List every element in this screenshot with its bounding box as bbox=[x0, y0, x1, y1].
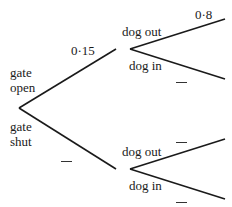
branch-gate-shut bbox=[19, 108, 116, 169]
prob-open-dog-out: 0·8 bbox=[195, 8, 212, 22]
label-gate-open-line1: gate bbox=[10, 66, 32, 80]
blank-prob-shut-dog-out bbox=[176, 142, 187, 143]
blank-prob-open-dog-in bbox=[176, 82, 187, 83]
tree-diagram bbox=[0, 0, 232, 207]
label-open-dog-out: dog out bbox=[122, 25, 161, 39]
label-shut-dog-out: dog out bbox=[122, 145, 161, 159]
label-gate-shut-line2: shut bbox=[10, 135, 32, 149]
prob-gate-open: 0·15 bbox=[71, 44, 95, 58]
blank-prob-gate-shut bbox=[61, 161, 72, 162]
label-shut-dog-in: dog in bbox=[129, 179, 162, 193]
label-gate-open-line2: open bbox=[10, 81, 35, 95]
label-gate-shut-line1: gate bbox=[10, 120, 32, 134]
blank-prob-shut-dog-in bbox=[176, 202, 187, 203]
branch-gate-open bbox=[19, 49, 116, 108]
label-open-dog-in: dog in bbox=[129, 59, 162, 73]
